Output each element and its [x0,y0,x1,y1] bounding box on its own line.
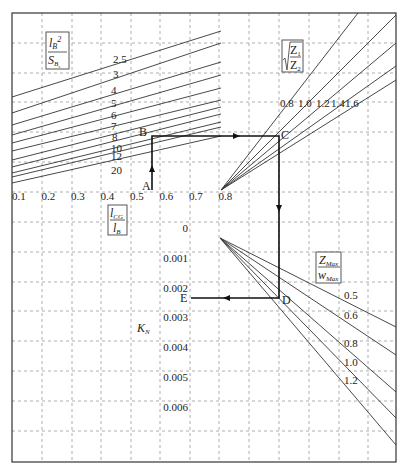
curve-label: 4 [111,84,117,96]
curve-label: 1.0 [298,97,312,109]
curve-label: 5 [111,97,117,109]
zmax-wmax-fan [220,238,396,445]
chart-frame [12,13,396,462]
arrow-down-icon [276,205,282,212]
curve-label: 1.0 [344,356,358,368]
zmax-wmax-label-box: ZMax wMax [316,252,341,283]
curve-label: 20 [111,164,123,176]
curve-z1z2-1.4 [221,66,396,190]
grid [12,13,396,462]
kn-tick-label: 0.005 [163,371,188,383]
curve-label: 1.2 [316,97,330,109]
x-tick-label: 0.1 [12,190,26,202]
curve-label: 0.8 [280,97,294,109]
lcg-lb-label-box: lCG lB [108,205,127,236]
kn-tick-label: 0 [183,222,189,234]
kn-axis-label: KN [136,321,150,336]
point-label-b: B [139,125,147,139]
curve-label: 1.2 [344,374,358,386]
arrow-right-icon [233,133,240,139]
curve-zmax-1.2 [220,238,396,445]
curve-label: 0.5 [344,289,358,301]
curve-label: 0.8 [344,337,358,349]
kn-tick-label: 0.003 [163,311,188,323]
point-label-d: D [282,293,291,307]
point-label-a: A [142,179,151,193]
curve-label: 12 [111,150,122,162]
kn-tick-label: 0.006 [163,401,188,413]
sqrt-z1-z2-label-box: Z1 Z2 [282,40,303,73]
curve-label: 2.5 [113,53,127,65]
curve-label: 1.6 [345,97,359,109]
curve-zmax-0.6 [220,238,396,355]
curve-zmax-1.0 [220,238,396,418]
x-tick-label: 0.2 [42,190,56,202]
x-tick-label: 0.8 [219,190,233,202]
solution-path [149,133,282,301]
point-label-c: C [281,128,289,142]
curve-label: 3 [113,68,119,80]
arrow-left-icon [223,295,230,301]
x-tick-label: 0.3 [71,190,85,202]
x-tick-label: 0.7 [189,190,203,202]
x-tick-label: 0.6 [160,190,174,202]
nomogram: 2.53456781012200.10.20.30.40.50.60.70.80… [0,0,405,469]
curve-zmax-0.5 [220,238,396,327]
curve-label: 1.4 [331,97,345,109]
curve-label: 0.6 [344,309,358,321]
arrow-up-icon [149,165,155,172]
point-label-e: E [180,291,187,305]
x-tick-label: 0.4 [101,190,115,202]
kn-tick-label: 0.001 [163,252,188,264]
kn-tick-label: 0.004 [163,341,188,353]
solution-polyline [152,136,279,298]
curve-zmax-0.8 [220,238,396,392]
curve-z1z2-1.2 [221,43,396,190]
lb2-sbs-label-box: lB2 SBs [46,32,69,69]
